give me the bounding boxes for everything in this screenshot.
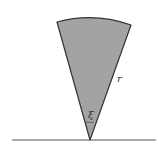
angle-label: ξ	[88, 109, 94, 120]
sector-diagram: r ξ	[0, 0, 158, 151]
radius-label: r	[117, 73, 123, 84]
